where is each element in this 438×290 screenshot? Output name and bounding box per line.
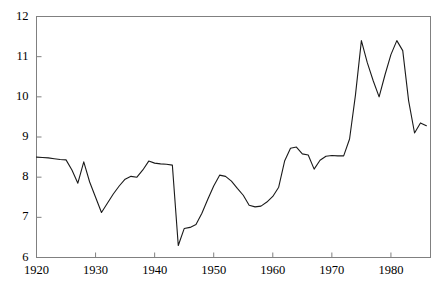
x-axis-tick-label: 1970 bbox=[310, 264, 354, 277]
y-axis-tick-label: 8 bbox=[3, 170, 29, 183]
y-axis-tick-label: 12 bbox=[3, 10, 29, 23]
chart-plot-area bbox=[0, 0, 438, 290]
x-axis-tick-label: 1930 bbox=[74, 264, 118, 277]
chart-container: 6789101112 1920193019401950196019701980 bbox=[0, 0, 438, 290]
y-axis-tick-label: 7 bbox=[3, 210, 29, 223]
x-axis-tick-label: 1950 bbox=[192, 264, 236, 277]
y-axis-tick-label: 10 bbox=[3, 90, 29, 103]
x-axis-tick-label: 1980 bbox=[369, 264, 413, 277]
y-axis-tick-label: 6 bbox=[3, 251, 29, 264]
x-axis-tick-label: 1920 bbox=[15, 264, 59, 277]
x-axis-tick-label: 1940 bbox=[133, 264, 177, 277]
x-axis-tick-label: 1960 bbox=[251, 264, 295, 277]
y-axis-tick-label: 11 bbox=[3, 50, 29, 63]
y-axis-tick-label: 9 bbox=[3, 130, 29, 143]
chart-background bbox=[0, 0, 438, 290]
